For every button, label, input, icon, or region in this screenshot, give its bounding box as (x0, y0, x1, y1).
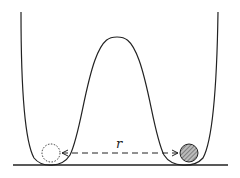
double-well-diagram: r (0, 0, 240, 178)
left-particle (42, 144, 60, 162)
distance-label: r (116, 136, 123, 151)
right-particle (180, 144, 198, 162)
